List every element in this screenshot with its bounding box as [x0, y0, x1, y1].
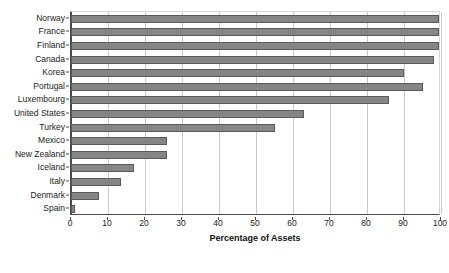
- y-axis-tick: [66, 31, 69, 32]
- bar: [71, 178, 121, 186]
- y-axis-label: New Zealand: [15, 150, 65, 159]
- plot-area: [70, 11, 440, 215]
- bar-row: [71, 66, 439, 80]
- bar: [71, 42, 439, 50]
- bar-row: [71, 53, 439, 67]
- y-axis-tick: [66, 126, 69, 127]
- x-axis-label: 80: [361, 219, 370, 228]
- x-axis-label: 90: [398, 219, 407, 228]
- y-axis-tick: [66, 181, 69, 182]
- x-axis-label: 40: [213, 219, 222, 228]
- bars-layer: [71, 12, 439, 214]
- y-axis-label: Finland: [37, 41, 65, 50]
- y-axis-tick: [66, 140, 69, 141]
- bar-row: [71, 162, 439, 176]
- x-axis-title: Percentage of Assets: [70, 234, 440, 243]
- bar: [71, 15, 439, 23]
- gridline-100: [441, 12, 442, 214]
- y-axis-label: Italy: [49, 177, 65, 186]
- x-axis-label: 60: [287, 219, 296, 228]
- bar-row: [71, 80, 439, 94]
- y-axis-tick: [66, 208, 69, 209]
- bar: [71, 69, 404, 77]
- bar: [71, 124, 275, 132]
- bar-row: [71, 202, 439, 216]
- y-axis-tick: [66, 167, 69, 168]
- bar-row: [71, 107, 439, 121]
- bar-row: [71, 12, 439, 26]
- bar: [71, 83, 423, 91]
- bar: [71, 192, 99, 200]
- x-axis-label: 50: [250, 219, 259, 228]
- y-axis-label: Denmark: [31, 190, 65, 199]
- x-axis-label: 70: [324, 219, 333, 228]
- x-axis-label: 20: [139, 219, 148, 228]
- bar: [71, 56, 434, 64]
- y-axis-label: United States: [14, 109, 65, 118]
- x-axis-label: 100: [433, 219, 447, 228]
- y-axis-label: Spain: [43, 204, 65, 213]
- y-axis-tick: [66, 113, 69, 114]
- bar-row: [71, 175, 439, 189]
- bar: [71, 151, 167, 159]
- y-axis-tick: [66, 17, 69, 18]
- bar-row: [71, 121, 439, 135]
- y-axis-tick: [66, 58, 69, 59]
- y-axis-label: Luxembourg: [18, 95, 65, 104]
- bar-row: [71, 26, 439, 40]
- y-axis-label: France: [39, 27, 65, 36]
- y-axis-tick: [66, 85, 69, 86]
- y-axis-tick: [66, 194, 69, 195]
- y-axis-label: Mexico: [38, 136, 65, 145]
- bar: [71, 205, 75, 213]
- y-axis-label: Iceland: [38, 163, 65, 172]
- bar: [71, 96, 389, 104]
- bar: [71, 110, 304, 118]
- x-axis-label: 10: [102, 219, 111, 228]
- bar-row: [71, 189, 439, 203]
- y-axis-tick: [66, 99, 69, 100]
- y-axis-label: Canada: [35, 54, 65, 63]
- y-axis-label: Turkey: [39, 122, 65, 131]
- bar-row: [71, 148, 439, 162]
- y-axis-label: Norway: [36, 14, 65, 23]
- y-axis-category-labels: NorwayFranceFinlandCanadaKoreaPortugalLu…: [0, 11, 68, 215]
- y-axis-label: Korea: [42, 68, 65, 77]
- bar-row: [71, 134, 439, 148]
- bar: [71, 164, 134, 172]
- bar-row: [71, 39, 439, 53]
- x-axis-label: 30: [176, 219, 185, 228]
- x-axis-tick-labels: 0102030405060708090100: [70, 217, 440, 231]
- y-axis-tick: [66, 153, 69, 154]
- bar: [71, 137, 167, 145]
- bar-row: [71, 94, 439, 108]
- bar: [71, 28, 439, 36]
- x-axis-label: 0: [68, 219, 73, 228]
- y-axis-label: Portugal: [33, 82, 65, 91]
- horizontal-bar-chart: NorwayFranceFinlandCanadaKoreaPortugalLu…: [0, 0, 449, 273]
- y-axis-tick: [66, 72, 69, 73]
- y-axis-tick: [66, 45, 69, 46]
